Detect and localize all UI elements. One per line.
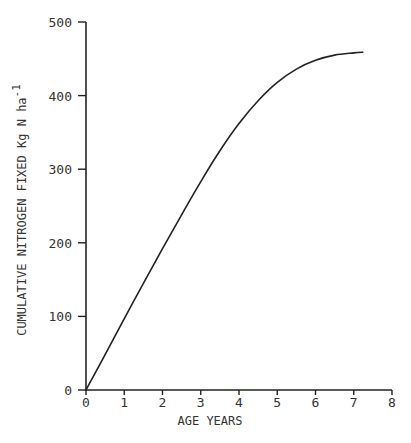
x-tick-label: 0 [82, 395, 90, 410]
y-axis-title-superscript: -1 [10, 84, 23, 97]
x-tick-label: 3 [197, 395, 205, 410]
x-axis: 012345678 [82, 390, 396, 410]
y-axis: 0100200300400500 [49, 15, 86, 398]
x-tick-label: 2 [159, 395, 167, 410]
x-tick-label: 7 [350, 395, 358, 410]
x-tick-label: 8 [388, 395, 396, 410]
x-axis-title: AGE YEARS [177, 414, 242, 428]
y-tick-label: 0 [64, 383, 72, 398]
x-tick-label: 5 [273, 395, 281, 410]
x-tick-label: 1 [120, 395, 128, 410]
chart: 0100200300400500 012345678 AGE YEARS CUM… [0, 0, 411, 443]
y-axis-title-text: CUMULATIVE NITROGEN FIXED Kg N ha [15, 97, 29, 335]
x-tick-label: 4 [235, 395, 243, 410]
y-tick-label: 100 [49, 309, 72, 324]
y-axis-title: CUMULATIVE NITROGEN FIXED Kg N ha-1 [10, 84, 29, 336]
y-tick-label: 500 [49, 15, 72, 30]
cumulative-nitrogen-line [86, 52, 363, 390]
x-tick-label: 6 [312, 395, 320, 410]
y-tick-label: 400 [49, 89, 72, 104]
y-tick-label: 300 [49, 162, 72, 177]
y-tick-label: 200 [49, 236, 72, 251]
